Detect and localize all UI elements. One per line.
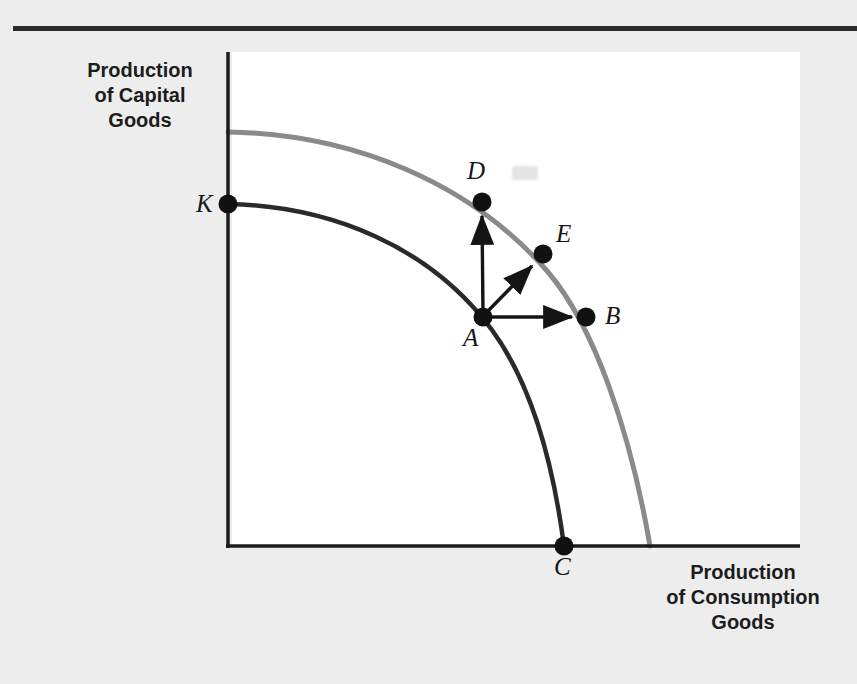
point-label-a: A [463,325,478,350]
point-label-b: B [605,303,620,328]
x-axis-label: Production of Consumption Goods [638,560,848,635]
scan-artifact-smudge [512,166,538,180]
plot-area-background [232,52,800,546]
point-label-d: D [467,158,485,183]
top-divider-rule [13,26,857,31]
point-label-k: K [196,191,213,216]
y-axis-label: Production of Capital Goods [60,58,220,133]
point-label-e: E [556,221,571,246]
point-label-c: C [554,554,571,579]
ppf-figure: K D E A B C Production of Capital Goods … [0,0,857,684]
